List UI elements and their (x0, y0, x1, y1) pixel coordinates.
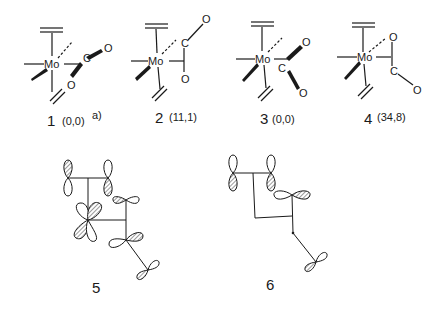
structure-number: 1 (47, 112, 55, 129)
metal-atom: Mo (148, 55, 163, 67)
carbon-atom: C (181, 37, 189, 49)
structure-number: 4 (364, 110, 372, 127)
orbital-diagram-6: 6 (229, 155, 327, 293)
relative-energy: (0,0) (62, 115, 85, 127)
diagram-number: 5 (92, 279, 100, 296)
oxygen-atom: O (302, 36, 311, 48)
structure-2: Mo C O O 2 (11,1) (131, 13, 211, 126)
carbon-atom: C (390, 65, 398, 77)
carbon-atom: C (83, 52, 91, 64)
structure-4: Mo O C O 4 (34,8) (337, 23, 422, 127)
oxygen-atom: O (202, 13, 211, 25)
footnote-marker: a) (92, 109, 102, 121)
diagram-number: 6 (266, 276, 274, 293)
structure-1: Mo C O O 1 (0,0) a) (24, 28, 113, 129)
oxygen-atom: O (67, 79, 76, 91)
relative-energy: (34,8) (377, 111, 406, 123)
structure-3: Mo C O O 3 (0,0) (236, 22, 311, 127)
metal-atom: Mo (255, 53, 270, 65)
metal-atom: Mo (44, 58, 59, 70)
relative-energy: (0,0) (272, 113, 295, 125)
figure-canvas: Mo C O O 1 (0,0) a) Mo C O O 2 (11,1) (0, 0, 443, 311)
structure-number: 3 (260, 110, 268, 127)
oxygen-atom: O (104, 42, 113, 54)
carbon-atom: C (278, 62, 286, 74)
orbital-diagram-5: 5 (64, 160, 159, 296)
oxygen-atom: O (389, 31, 398, 43)
structure-number: 2 (155, 109, 163, 126)
metal-atom: Mo (357, 51, 372, 63)
relative-energy: (11,1) (169, 111, 197, 123)
oxygen-atom: O (413, 84, 422, 96)
oxygen-atom: O (299, 87, 308, 99)
oxygen-atom: O (181, 73, 190, 85)
